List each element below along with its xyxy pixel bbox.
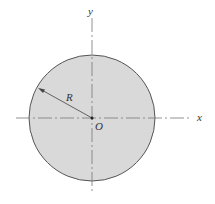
origin-label: O	[95, 120, 103, 132]
x-axis-label: x	[196, 111, 202, 123]
circle-diagram: y x R O	[0, 0, 215, 204]
radius-label: R	[65, 91, 73, 103]
origin-point	[91, 117, 94, 120]
y-axis-label: y	[87, 5, 93, 17]
